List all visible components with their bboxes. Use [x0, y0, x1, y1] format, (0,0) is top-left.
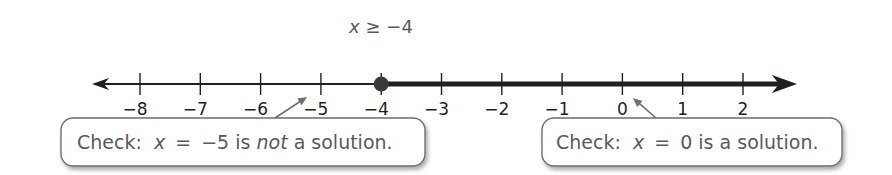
callout-pointer-arrow — [275, 100, 302, 118]
callout-is-solution: Check: x = 0 is a solution. — [542, 98, 842, 166]
callout-middle: is — [235, 131, 250, 153]
inequality-label: x ≥ −4 — [348, 16, 413, 37]
closed-endpoint-dot — [374, 77, 389, 92]
callout-equals: = — [175, 131, 191, 153]
tick-label: −2 — [484, 99, 509, 119]
callout-equals: = — [654, 131, 670, 153]
callout-text: Check: x = 0 is a solution. — [556, 131, 819, 153]
callout-suffix: a solution. — [294, 131, 393, 153]
tick-label: 0 — [617, 99, 628, 119]
tick-label: −1 — [545, 99, 570, 119]
tick-label: −5 — [303, 99, 328, 119]
callout-value: 0 — [680, 131, 692, 153]
callout-prefix: Check: — [77, 131, 142, 153]
callout-variable: x — [153, 131, 166, 153]
tick-label: −3 — [424, 99, 449, 119]
callout-emphasis: not — [256, 131, 289, 153]
tick-label: 1 — [677, 99, 688, 119]
callout-text: Check: x = −5 is not a solution. — [77, 131, 393, 153]
inequality-relation: ≥ — [366, 16, 381, 37]
tick-label: 2 — [738, 99, 749, 119]
tick-label: −6 — [243, 99, 268, 119]
tick-label: −4 — [364, 99, 389, 119]
callout-suffix: a solution. — [720, 131, 819, 153]
tick-label: −8 — [122, 99, 147, 119]
inequality-value: −4 — [386, 16, 413, 37]
number-line-axis — [92, 75, 797, 93]
callout-prefix: Check: — [556, 131, 621, 153]
inequality-variable: x — [348, 16, 360, 37]
callout-value: −5 — [201, 131, 229, 153]
callout-pointer-arrow — [638, 102, 656, 118]
number-line-diagram: x ≥ −4 −8−7−6−5−4−3−2−1012 Check: x = −5… — [0, 0, 892, 175]
tick-label: −7 — [183, 99, 208, 119]
callout-variable: x — [632, 131, 645, 153]
callout-middle: is — [698, 131, 713, 153]
